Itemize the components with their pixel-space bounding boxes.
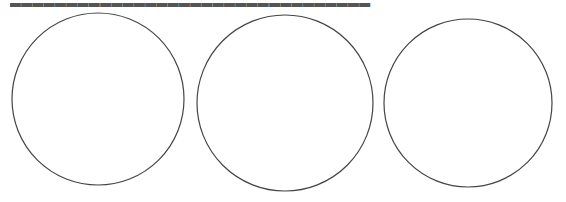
- circles-figure: [0, 0, 566, 202]
- circle-2: [197, 15, 373, 191]
- circle-1: [12, 13, 184, 185]
- circle-3: [384, 19, 552, 187]
